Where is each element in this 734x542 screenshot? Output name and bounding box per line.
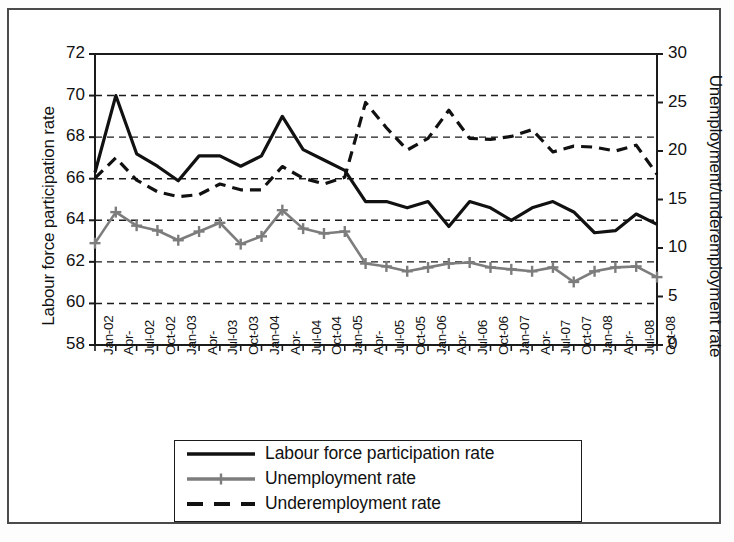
y-tick-label: 70 — [51, 85, 85, 105]
y-tick-label: 72 — [51, 43, 85, 63]
y2-tick-label: 20 — [668, 140, 702, 160]
x-tick-label: Oct-03 — [246, 316, 261, 355]
plot-frame — [95, 54, 657, 345]
legend-swatch — [185, 446, 257, 462]
x-tick-label: Jan-08 — [600, 316, 615, 355]
x-tick-label: Oct-08 — [663, 316, 678, 355]
x-tick-label: Jan-03 — [184, 316, 199, 355]
y-tick-label: 68 — [51, 126, 85, 146]
x-tick-label: Oct-06 — [496, 316, 511, 355]
x-tick-label: Jul-02 — [142, 320, 157, 355]
y2-axis-title: Unemployment/underemployment rate — [705, 66, 725, 366]
x-tick-label: Jan-06 — [434, 316, 449, 355]
legend-label: Underemployment rate — [265, 493, 441, 514]
x-tick-label: Oct-07 — [579, 316, 594, 355]
x-tick-label: Jul-06 — [475, 320, 490, 355]
data-point-marker — [318, 228, 329, 239]
y-tick-label: 62 — [51, 251, 85, 271]
x-tick-label: Jan-07 — [517, 316, 532, 355]
x-tick-label: Apr- — [121, 331, 136, 355]
legend-item: Unemployment rate — [175, 466, 581, 491]
data-point-marker — [652, 272, 663, 283]
x-tick-label: Jul-05 — [392, 320, 407, 355]
x-tick-label: Jan-05 — [350, 316, 365, 355]
x-tick-label: Jan-02 — [101, 316, 116, 355]
x-tick-label: Apr- — [621, 331, 636, 355]
x-tick-label: Apr- — [371, 331, 386, 355]
x-tick-label: Apr- — [538, 331, 553, 355]
figure-canvas: Labour force participation rate Unemploy… — [0, 0, 734, 542]
y-tick-label: 64 — [51, 209, 85, 229]
data-series — [90, 96, 663, 288]
legend-swatch — [185, 496, 257, 512]
y2-tick-label: 15 — [668, 189, 702, 209]
x-tick-label: Apr- — [454, 331, 469, 355]
data-point-marker — [194, 226, 205, 237]
y-tick-label: 60 — [51, 292, 85, 312]
x-tick-label: Oct-02 — [163, 316, 178, 355]
legend-label: Unemployment rate — [265, 468, 416, 489]
data-point-marker — [589, 266, 600, 277]
x-tick-label: Apr- — [288, 331, 303, 355]
legend: Labour force participation rateUnemploym… — [174, 440, 582, 522]
x-tick-label: Jul-03 — [225, 320, 240, 355]
legend-item: Labour force participation rate — [175, 441, 581, 466]
y2-tick-label: 10 — [668, 237, 702, 257]
data-point-marker — [464, 257, 475, 268]
x-tick-label: Jul-04 — [309, 320, 324, 355]
series-line-2 — [95, 103, 657, 197]
legend-label: Labour force participation rate — [265, 443, 494, 464]
data-point-marker — [443, 258, 454, 269]
y-tick-label: 66 — [51, 168, 85, 188]
x-tick-label: Jul-08 — [642, 320, 657, 355]
y2-tick-label: 25 — [668, 92, 702, 112]
x-tick-label: Apr- — [205, 331, 220, 355]
x-tick-label: Jan-04 — [267, 316, 282, 355]
data-point-marker — [402, 266, 413, 277]
x-tick-label: Oct-05 — [413, 316, 428, 355]
y2-tick-label: 5 — [668, 286, 702, 306]
data-point-marker — [631, 261, 642, 272]
data-point-marker — [485, 262, 496, 273]
gridlines — [95, 96, 657, 304]
data-point-marker — [173, 235, 184, 246]
data-point-marker — [381, 261, 392, 272]
figure-border: Labour force participation rate Unemploy… — [7, 8, 721, 524]
data-point-marker — [423, 262, 434, 273]
data-point-marker — [610, 262, 621, 273]
y-tick-label: 58 — [51, 334, 85, 354]
legend-item: Underemployment rate — [175, 491, 581, 516]
y2-tick-label: 30 — [668, 43, 702, 63]
x-tick-label: Jul-07 — [558, 320, 573, 355]
legend-swatch — [185, 471, 257, 487]
x-tick-label: Oct-04 — [329, 316, 344, 355]
data-point-marker — [527, 266, 538, 277]
data-point-marker — [152, 225, 163, 236]
data-point-marker — [506, 264, 517, 275]
